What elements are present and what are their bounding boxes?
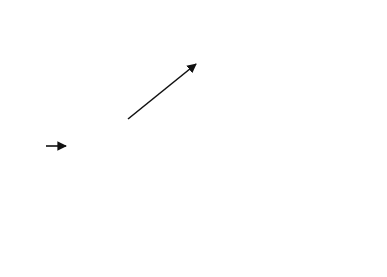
edge-b-e	[255, 68, 264, 118]
edge-b-e-draw	[250, 70, 266, 120]
edge-b-e-real	[251, 70, 266, 118]
edge-b-e-arrow	[250, 70, 266, 119]
edge-b-e-w	[251, 70, 266, 119]
edge-a-b	[128, 64, 196, 119]
edge-b-e-main	[250, 71, 265, 120]
edge-b-to-e	[252, 70, 266, 118]
network-diagram	[0, 0, 387, 277]
edge-b-e-final	[252, 69, 264, 118]
edge-b-e-line	[252, 68, 265, 121]
edge-b-e-path	[251, 69, 266, 118]
edge-b-e-visible	[250, 70, 267, 118]
